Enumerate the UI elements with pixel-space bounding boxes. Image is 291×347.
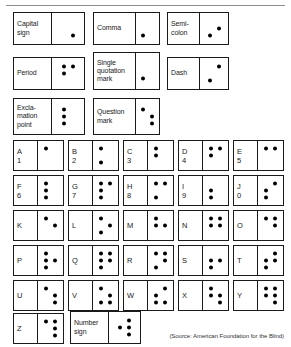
braille-dot-5 <box>163 154 167 158</box>
letter-g-label: G 7 <box>69 176 93 205</box>
braille-dot-grid <box>139 106 157 127</box>
braille-dot-4 <box>218 287 222 291</box>
braille-dot-2 <box>264 294 268 298</box>
braille-dot-3 <box>141 76 145 80</box>
capital-sign-label: Capital sign <box>14 13 52 44</box>
braille-dot-3 <box>154 161 158 165</box>
braille-dot-6 <box>273 301 277 305</box>
braille-dot-4 <box>218 217 222 221</box>
letter-h-label: H 8 <box>124 176 148 205</box>
braille-dot-4 <box>218 252 222 256</box>
braille-dot-6 <box>217 34 221 38</box>
braille-dot-5 <box>108 154 112 158</box>
braille-dot-4 <box>218 182 222 186</box>
dash-dot-pattern <box>200 58 228 89</box>
braille-dot-grid <box>97 180 115 201</box>
braille-dot-1 <box>264 182 268 186</box>
letter-m-label: M <box>124 211 148 240</box>
braille-cell-letter-b: B 2 <box>68 140 119 171</box>
braille-dot-2 <box>118 326 122 330</box>
braille-dot-4 <box>53 147 57 151</box>
letter-y-dot-pattern <box>258 281 283 310</box>
letter-p-label: P <box>14 246 38 275</box>
braille-dot-1 <box>141 62 145 66</box>
braille-dot-5 <box>217 72 221 76</box>
braille-cell-letter-m: M <box>123 210 174 241</box>
braille-dot-5 <box>163 294 167 298</box>
braille-dot-1 <box>44 182 48 186</box>
braille-dot-1 <box>208 20 212 24</box>
braille-dot-2 <box>99 294 103 298</box>
braille-dot-3 <box>44 334 48 338</box>
braille-dot-3 <box>209 231 213 235</box>
letter-l-dot-pattern <box>93 211 118 240</box>
braille-dot-3 <box>154 196 158 200</box>
braille-cell-letter-d: D 4 <box>178 140 229 171</box>
braille-dot-3 <box>62 122 66 126</box>
braille-dot-6 <box>108 161 112 165</box>
capital-sign-dot-pattern <box>52 13 84 44</box>
braille-dot-4 <box>71 108 75 112</box>
braille-dot-4 <box>163 217 167 221</box>
braille-dot-1 <box>99 217 103 221</box>
braille-dot-6 <box>53 161 57 165</box>
braille-dot-3 <box>99 301 103 305</box>
braille-dot-6 <box>218 231 222 235</box>
braille-dot-grid <box>42 318 60 339</box>
letter-e-label: E 5 <box>234 141 258 170</box>
braille-dot-3 <box>99 161 103 165</box>
braille-dot-1 <box>44 252 48 256</box>
braille-dot-6 <box>53 231 57 235</box>
braille-cell-letter-g: G 7 <box>68 175 119 206</box>
braille-dot-2 <box>44 259 48 263</box>
braille-dot-3 <box>44 196 48 200</box>
braille-dot-4 <box>273 287 277 291</box>
letter-r-dot-pattern <box>148 246 173 275</box>
braille-dot-6 <box>150 34 154 38</box>
braille-dot-grid <box>152 250 170 271</box>
braille-dot-5 <box>273 224 277 228</box>
braille-dot-6 <box>273 196 277 200</box>
letter-k-label: K <box>14 211 38 240</box>
braille-dot-5 <box>218 294 222 298</box>
comma-dot-pattern <box>136 13 159 44</box>
question-mark-label: Question mark <box>94 99 136 134</box>
braille-dot-grid <box>97 145 115 166</box>
braille-dot-6 <box>163 266 167 270</box>
braille-dot-2 <box>208 27 212 31</box>
letter-u-dot-pattern <box>38 281 63 310</box>
braille-dot-grid <box>42 250 60 271</box>
braille-dot-1 <box>209 147 213 151</box>
braille-dot-5 <box>218 224 222 228</box>
braille-dot-grid <box>207 250 225 271</box>
braille-dot-4 <box>217 20 221 24</box>
braille-dot-grid <box>116 317 134 338</box>
braille-dot-6 <box>71 122 75 126</box>
braille-dot-4 <box>273 217 277 221</box>
braille-dot-3 <box>264 231 268 235</box>
braille-dot-4 <box>150 62 154 66</box>
braille-dot-5 <box>108 189 112 193</box>
braille-dot-1 <box>99 182 103 186</box>
letter-z-dot-pattern <box>38 314 63 343</box>
braille-dot-6 <box>53 334 57 338</box>
braille-dot-5 <box>53 294 57 298</box>
braille-dot-4 <box>163 287 167 291</box>
braille-dot-1 <box>99 252 103 256</box>
letter-c-label: C 3 <box>124 141 148 170</box>
braille-dot-grid <box>205 18 223 39</box>
letter-a-label: A 1 <box>14 141 38 170</box>
letter-b-dot-pattern <box>93 141 118 170</box>
braille-dot-3 <box>264 161 268 165</box>
braille-dot-1 <box>154 252 158 256</box>
braille-dot-3 <box>62 34 66 38</box>
source-attribution: (Source: American Foundation for the Bli… <box>169 333 284 339</box>
braille-dot-4 <box>108 252 112 256</box>
braille-dot-6 <box>273 266 277 270</box>
braille-dot-4 <box>163 182 167 186</box>
letter-i-label: I 9 <box>179 176 203 205</box>
period-dot-pattern <box>52 58 84 89</box>
braille-dot-grid <box>42 215 60 236</box>
braille-dot-2 <box>209 154 213 158</box>
braille-dot-6 <box>108 196 112 200</box>
